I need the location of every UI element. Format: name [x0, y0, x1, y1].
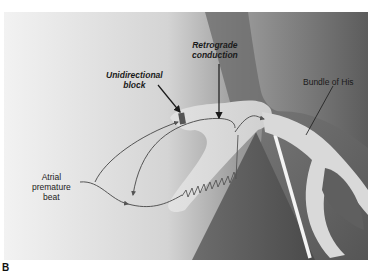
label-line: Atrial	[32, 172, 71, 182]
label-line: Unidirectional	[106, 70, 163, 80]
reentry-illustration	[0, 0, 375, 275]
label-retrograde-conduction: Retrograde conduction	[192, 40, 238, 60]
panel-letter: B	[2, 262, 9, 273]
label-line: Retrograde	[192, 40, 238, 50]
label-atrial-premature-beat: Atrial premature beat	[32, 172, 71, 202]
label-unidirectional-block: Unidirectional block	[106, 70, 163, 90]
label-line: premature	[32, 182, 71, 192]
reentry-diagram: Unidirectional block Retrograde conducti…	[0, 0, 375, 275]
label-line: block	[106, 80, 163, 90]
label-line: conduction	[192, 50, 238, 60]
label-bundle-of-his: Bundle of His	[303, 77, 354, 87]
label-line: beat	[32, 192, 71, 202]
